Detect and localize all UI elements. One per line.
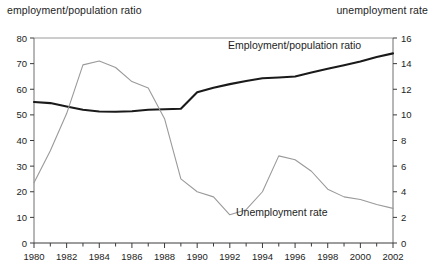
x-tick-label: 1982 xyxy=(56,251,77,262)
y-tick-label-left: 20 xyxy=(16,186,27,197)
x-tick-label: 1988 xyxy=(154,251,175,262)
y-tick-label-left: 70 xyxy=(16,58,27,69)
axis-layer: 0102030405060708002468101214161980198219… xyxy=(16,33,411,262)
y-tick-label-right: 12 xyxy=(401,84,412,95)
series-layer xyxy=(34,53,393,214)
x-tick-label: 1984 xyxy=(89,251,110,262)
y-tick-label-right: 16 xyxy=(401,33,412,44)
y-tick-label-left: 40 xyxy=(16,135,27,146)
dual-axis-line-chart: 0102030405060708002468101214161980198219… xyxy=(0,0,434,273)
y-tick-label-right: 14 xyxy=(401,58,412,69)
y-tick-label-left: 0 xyxy=(22,238,27,249)
y-tick-label-right: 10 xyxy=(401,109,412,120)
x-tick-label: 1996 xyxy=(285,251,306,262)
y-tick-label-right: 2 xyxy=(401,212,406,223)
y-tick-label-left: 60 xyxy=(16,84,27,95)
x-tick-label: 2000 xyxy=(350,251,371,262)
series-2-annotation: Unemployment rate xyxy=(236,206,328,218)
series-line-1 xyxy=(34,53,393,111)
x-tick-label: 1980 xyxy=(23,251,44,262)
y-tick-label-right: 8 xyxy=(401,135,406,146)
x-tick-label: 2002 xyxy=(382,251,403,262)
chart-container: employment/population ratio unemployment… xyxy=(0,0,434,273)
x-tick-label: 1994 xyxy=(252,251,273,262)
y-tick-label-left: 50 xyxy=(16,109,27,120)
x-tick-label: 1998 xyxy=(317,251,338,262)
series-line-2 xyxy=(34,61,393,215)
y-tick-label-left: 80 xyxy=(16,33,27,44)
x-tick-label: 1986 xyxy=(121,251,142,262)
y-tick-label-left: 30 xyxy=(16,161,27,172)
x-tick-label: 1992 xyxy=(219,251,240,262)
y-tick-label-left: 10 xyxy=(16,212,27,223)
series-1-annotation: Employment/population ratio xyxy=(228,39,361,51)
y-tick-label-right: 0 xyxy=(401,238,406,249)
y-tick-label-right: 6 xyxy=(401,161,406,172)
y-tick-label-right: 4 xyxy=(401,186,406,197)
x-tick-label: 1990 xyxy=(187,251,208,262)
